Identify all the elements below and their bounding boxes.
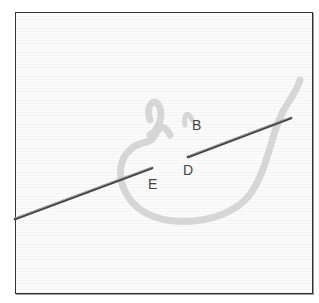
label-e: E (148, 176, 157, 192)
stitch-illustration (0, 0, 319, 303)
yarn-loop (120, 80, 300, 221)
label-b: B (192, 117, 201, 133)
label-d: D (183, 162, 193, 178)
needle-left (15, 167, 152, 219)
